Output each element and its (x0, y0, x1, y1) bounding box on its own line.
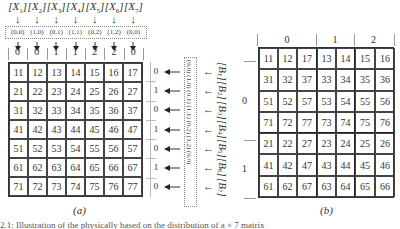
column-group-label: 0 (258, 34, 316, 45)
matrix-cell: 11 (259, 48, 278, 69)
group-tick (316, 34, 317, 46)
matrix-cell: 41 (9, 120, 28, 139)
row-group-label: 1 (242, 163, 247, 174)
matrix-cell: 53 (47, 139, 66, 158)
matrix-cell: 41 (259, 154, 278, 175)
caption-b: (b) (320, 204, 333, 216)
row-owner-tick (146, 81, 156, 82)
matrix-cell: 33 (47, 101, 66, 120)
matrix-cell: 76 (104, 177, 123, 196)
matrix-cell: 56 (104, 139, 123, 158)
group-tick (354, 34, 355, 46)
owner-tick (143, 48, 144, 60)
matrix-cell: 63 (317, 176, 336, 197)
row-group-tick (244, 61, 256, 62)
matrix-cell: 17 (123, 63, 142, 82)
column-group-label: 2 (354, 34, 393, 45)
matrix-cell: 16 (104, 63, 123, 82)
arrow-left-icon: ← (203, 142, 214, 154)
matrix-cell: 12 (278, 48, 297, 69)
matrix-cell: 71 (259, 112, 278, 133)
matrix-cell: 52 (28, 139, 47, 158)
matrix-cell: 72 (28, 177, 47, 196)
arrow-left-solid-icon (163, 144, 183, 156)
matrix-cell: 57 (123, 139, 142, 158)
row-owner: 1 (150, 124, 162, 134)
row-label: [B3] (216, 101, 229, 120)
column-tuple: (0,2) (85, 28, 105, 36)
matrix-cell: 44 (336, 154, 355, 175)
matrix-cell: 11 (9, 63, 28, 82)
matrix-cell: 45 (85, 120, 104, 139)
matrix-cell: 61 (9, 158, 28, 177)
matrix-b: 1112171314151631323733343536515257535455… (258, 47, 394, 198)
owner-tick (8, 48, 9, 60)
matrix-cell: 23 (317, 133, 336, 154)
group-tick (394, 34, 395, 46)
row-owner-tick (146, 120, 156, 121)
matrix-cell: 14 (336, 48, 355, 69)
row-labels: [B1][B2][B3][B4][B5][B6][B7] (216, 62, 229, 197)
matrix-cell: 62 (28, 158, 47, 177)
matrix-cell: 22 (278, 133, 297, 154)
row-owner-tick (146, 158, 156, 159)
row-group-label: 0 (242, 95, 247, 106)
matrix-cell: 42 (28, 120, 47, 139)
matrix-cell: 76 (375, 112, 395, 133)
arrow-left-solid-icon (163, 67, 183, 79)
row-label: [B1] (216, 62, 229, 81)
arrow-left-icon: ← (203, 180, 214, 192)
arrow-down-icon: ↓ (104, 14, 124, 24)
matrix-cell: 65 (85, 158, 104, 177)
arrow-left-icon: ← (203, 123, 214, 135)
column-owner: 2 (85, 46, 104, 57)
matrix-cell: 47 (297, 154, 317, 175)
matrix-cell: 15 (85, 63, 104, 82)
matrix-cell: 54 (66, 139, 85, 158)
row-owner: 0 (150, 181, 162, 191)
matrix-cell: 56 (375, 91, 395, 112)
matrix-cell: 31 (259, 69, 278, 90)
matrix-cell: 53 (317, 91, 336, 112)
matrix-cell: 62 (278, 176, 297, 197)
matrix-cell: 45 (355, 154, 375, 175)
matrix-cell: 23 (47, 82, 66, 101)
column-owner: 1 (47, 46, 66, 57)
matrix-cell: 34 (336, 69, 355, 90)
matrix-cell: 46 (375, 154, 395, 175)
matrix-cell: 32 (278, 69, 297, 90)
matrix-cell: 44 (66, 120, 85, 139)
matrix-cell: 55 (355, 91, 375, 112)
row-group-tick (244, 140, 256, 141)
matrix-cell: 55 (85, 139, 104, 158)
matrix-cell: 32 (28, 101, 47, 120)
matrix-cell: 66 (375, 176, 395, 197)
column-tuple: (0,0) (123, 28, 143, 36)
matrix-cell: 24 (336, 133, 355, 154)
arrow-left-icon: ← (203, 103, 214, 115)
matrix-cell: 43 (317, 154, 336, 175)
matrix-cell: 21 (9, 82, 28, 101)
matrix-cell: 73 (47, 177, 66, 196)
row-owner-tick (146, 139, 156, 140)
matrix-cell: 35 (355, 69, 375, 90)
figure-caption: 2.1: Illustration of the physically base… (0, 220, 400, 229)
row-owner: 1 (150, 162, 162, 172)
column-tuple: (0,1) (46, 28, 66, 36)
column-owner: 1 (66, 46, 85, 57)
arrow-down-icon: ↓ (27, 14, 47, 24)
matrix-cell: 26 (375, 133, 395, 154)
column-tuple: (1,1) (66, 28, 86, 36)
column-owner: 0 (27, 46, 46, 57)
column-group-label: 1 (316, 34, 354, 45)
row-owner: 0 (150, 104, 162, 114)
matrix-cell: 37 (123, 101, 142, 120)
matrix-cell: 74 (336, 112, 355, 133)
matrix-cell: 36 (104, 101, 123, 120)
matrix-cell: 25 (355, 133, 375, 154)
arrow-down-icon: ↓ (85, 14, 105, 24)
arrow-down-icon: ↓ (123, 14, 143, 24)
row-owner-divider (150, 62, 151, 197)
column-owner: 0 (124, 46, 143, 57)
arrow-left-solid-icon (163, 105, 183, 117)
